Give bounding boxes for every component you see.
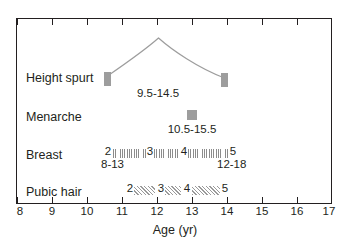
x-tick-label-9: 9	[49, 205, 55, 217]
tick-bottom-15	[262, 197, 263, 204]
breast-segment-2-3	[113, 149, 146, 158]
pubic-hair-segment-2-3	[134, 186, 155, 195]
x-tick-label-8: 8	[17, 205, 23, 217]
height-spurt-start-marker	[104, 72, 111, 86]
tick-top-8	[17, 18, 18, 25]
tick-bottom-13	[192, 197, 193, 204]
tick-bottom-10	[87, 197, 88, 204]
breast-stage-4-label: 4	[181, 145, 187, 157]
x-tick-label-11: 11	[116, 205, 128, 217]
pubic-hair-stage-5-label: 5	[222, 182, 228, 194]
pubic-hair-segment-3-4	[165, 186, 181, 195]
tick-bottom-14	[227, 197, 228, 204]
row-label-pubic-hair: Pubic hair	[26, 185, 82, 199]
height-spurt-end-marker	[221, 73, 228, 87]
tick-top-14	[227, 18, 228, 25]
pubic-hair-stage-3-label: 3	[158, 182, 164, 194]
x-tick-label-17: 17	[323, 205, 336, 217]
tick-top-12	[157, 18, 158, 25]
x-tick-label-13: 13	[186, 205, 199, 217]
puberty-timeline-chart: 8 9 10 11 12 13 14 15 16 17 Age (yr) Hei…	[0, 0, 350, 245]
breast-caption-left: 8-13	[101, 158, 124, 170]
x-tick-label-10: 10	[81, 205, 94, 217]
tick-top-13	[192, 18, 193, 25]
tick-bottom-11	[122, 197, 123, 204]
menarche-range-caption: 10.5-15.5	[168, 123, 217, 135]
pubic-hair-stage-2-label: 2	[127, 182, 133, 194]
tick-top-15	[262, 18, 263, 25]
breast-stage-2-label: 2	[105, 145, 111, 157]
tick-top-9	[52, 18, 53, 25]
menarche-marker	[187, 110, 197, 120]
x-tick-label-16: 16	[291, 205, 304, 217]
breast-stage-5-label: 5	[230, 145, 236, 157]
x-axis-title: Age (yr)	[0, 223, 350, 237]
tick-top-11	[122, 18, 123, 25]
breast-stage-3-label: 3	[147, 145, 153, 157]
height-spurt-range-caption: 9.5-14.5	[137, 87, 179, 99]
x-tick-label-15: 15	[256, 205, 269, 217]
x-tick-label-14: 14	[221, 205, 234, 217]
x-tick-label-12: 12	[151, 205, 164, 217]
row-label-menarche: Menarche	[26, 110, 82, 124]
tick-bottom-16	[297, 197, 298, 204]
tick-bottom-12	[157, 197, 158, 204]
tick-bottom-8	[17, 197, 18, 204]
row-label-breast: Breast	[26, 148, 62, 162]
breast-segment-3-4	[154, 149, 178, 158]
row-label-height-spurt: Height spurt	[26, 71, 93, 85]
tick-top-10	[87, 18, 88, 25]
breast-segment-4-5	[188, 149, 229, 158]
tick-top-16	[297, 18, 298, 25]
pubic-hair-stage-4-label: 4	[184, 182, 190, 194]
pubic-hair-segment-4-5	[192, 186, 220, 195]
breast-caption-right: 12-18	[217, 158, 246, 170]
